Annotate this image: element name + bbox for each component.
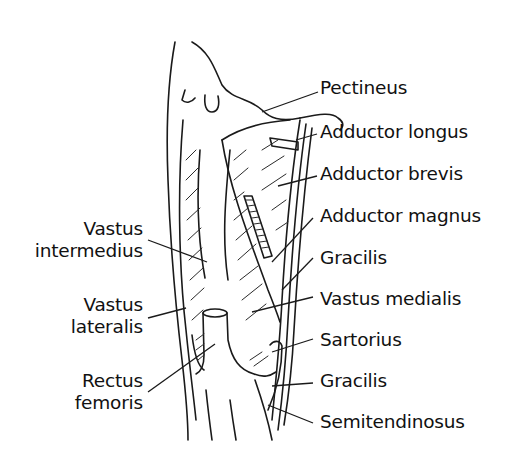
label-sartorius: Sartorius	[320, 329, 402, 351]
label-line: intermedius	[35, 240, 143, 262]
label-semitendinosus: Semitendinosus	[320, 411, 465, 433]
label-vastus-lateralis: Vastus lateralis	[71, 294, 143, 338]
label-adductor-longus: Adductor longus	[320, 121, 468, 143]
label-gracilis-lower: Gracilis	[320, 370, 387, 392]
label-line: lateralis	[71, 316, 143, 338]
label-line: femoris	[75, 392, 143, 414]
label-adductor-magnus: Adductor magnus	[320, 205, 481, 227]
label-gracilis-upper: Gracilis	[320, 247, 387, 269]
label-vastus-medialis: Vastus medialis	[320, 288, 461, 310]
label-line: Vastus	[35, 218, 143, 240]
label-adductor-brevis: Adductor brevis	[320, 163, 463, 185]
label-rectus-femoris: Rectus femoris	[75, 370, 143, 414]
label-pectineus: Pectineus	[320, 77, 407, 99]
label-line: Vastus	[71, 294, 143, 316]
label-vastus-intermedius: Vastus intermedius	[35, 218, 143, 262]
label-line: Rectus	[75, 370, 143, 392]
